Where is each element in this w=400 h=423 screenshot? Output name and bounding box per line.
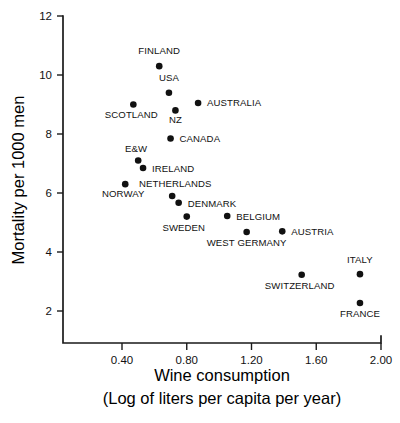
data-point-marker: [156, 63, 163, 70]
data-point-label: NZ: [169, 114, 182, 125]
data-point-label: IRELAND: [152, 163, 194, 174]
data-point-label: FINLAND: [138, 45, 180, 56]
data-point-marker: [357, 271, 364, 278]
x-tick-label: 1.20: [240, 354, 262, 366]
x-axis-title-line1: Wine consumption: [154, 366, 290, 384]
data-point-marker: [195, 100, 202, 107]
data-point-marker: [183, 213, 190, 220]
y-tick-label: 8: [46, 128, 52, 140]
data-point-marker: [172, 107, 179, 114]
y-tick-label: 4: [46, 246, 53, 258]
data-point-label: E&W: [125, 143, 148, 154]
data-point-marker: [243, 229, 250, 236]
data-point-label: SWITZERLAND: [265, 280, 335, 291]
data-point-label: CANADA: [180, 133, 221, 144]
y-axis-title: Mortality per 1000 men: [9, 96, 27, 265]
x-tick-label: 2.00: [370, 354, 392, 366]
data-point-marker: [135, 157, 142, 164]
data-point-label: AUSTRALIA: [207, 97, 262, 108]
plot-area: 12108642 0.400.801.201.602.00 FINLANDUSA…: [0, 0, 400, 423]
x-axis-title-line2: (Log of liters per capita per year): [103, 389, 341, 407]
data-point-label: AUSTRIA: [291, 226, 334, 237]
data-point-marker: [224, 213, 231, 220]
data-point-group: FINLANDUSASCOTLANDAUSTRALIANZCANADAE&WIR…: [102, 45, 380, 319]
data-point-label: FRANCE: [340, 308, 380, 319]
data-point-marker: [357, 300, 364, 307]
data-point-marker: [175, 199, 182, 206]
data-point-label: BELGIUM: [236, 211, 280, 222]
y-axis-ticks: 12108642: [39, 10, 63, 317]
data-point-marker: [167, 135, 174, 142]
y-tick-label: 2: [46, 305, 52, 317]
data-point-label: ITALY: [347, 254, 373, 265]
x-tick-label: 1.60: [305, 354, 327, 366]
data-point-marker: [169, 193, 176, 200]
data-point-marker: [298, 271, 305, 278]
data-point-label: NETHERLANDS: [139, 178, 212, 189]
y-tick-label: 12: [39, 10, 52, 22]
data-point-label: WEST GERMANY: [207, 237, 287, 248]
data-point-label: USA: [159, 72, 180, 83]
data-point-label: NORWAY: [102, 188, 145, 199]
data-point-label: SWEDEN: [162, 222, 205, 233]
data-point-marker: [122, 181, 129, 188]
x-tick-label: 0.80: [176, 354, 198, 366]
x-tick-label: 0.40: [111, 354, 133, 366]
data-point-marker: [130, 101, 137, 108]
data-point-marker: [279, 228, 286, 235]
data-point-marker: [166, 89, 173, 96]
data-point-marker: [140, 165, 147, 172]
axis-lines: [63, 16, 381, 343]
y-tick-label: 10: [39, 69, 52, 81]
data-point-label: SCOTLAND: [105, 109, 158, 120]
data-point-label: DENMARK: [188, 198, 237, 209]
wine-mortality-scatter-chart: 12108642 0.400.801.201.602.00 FINLANDUSA…: [0, 0, 400, 423]
x-axis-ticks: 0.400.801.201.602.00: [111, 343, 392, 366]
y-tick-label: 6: [46, 187, 52, 199]
